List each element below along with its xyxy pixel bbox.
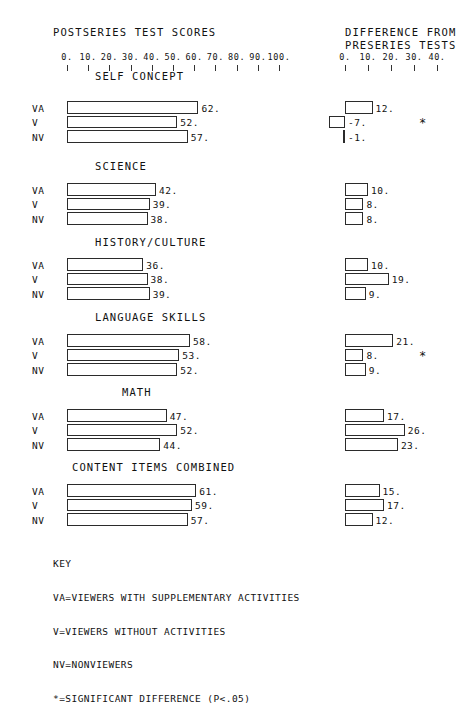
right-axis: 0.10.20.30.40. bbox=[0, 52, 468, 74]
key-line-va: VA=VIEWERS WITH SUPPLEMENTARY ACTIVITIES bbox=[53, 592, 300, 603]
row-label-v: V bbox=[32, 350, 38, 361]
diff-bar bbox=[345, 349, 363, 362]
row-label-v: V bbox=[32, 199, 38, 210]
diff-bar-value: 17. bbox=[387, 411, 406, 422]
row-label-nv: NV bbox=[32, 365, 45, 376]
row-label-nv: NV bbox=[32, 289, 45, 300]
key-line-nv: NV=NONVIEWERS bbox=[53, 659, 300, 670]
row-label-va: VA bbox=[32, 411, 45, 422]
post-bar bbox=[67, 101, 198, 114]
diff-bar bbox=[345, 499, 384, 512]
post-bar-value: 38. bbox=[151, 214, 170, 225]
post-bar bbox=[67, 513, 188, 526]
diff-bar-value: 12. bbox=[376, 103, 395, 114]
post-bar bbox=[67, 183, 156, 196]
axis-tick-mark bbox=[437, 65, 438, 71]
diff-bar bbox=[345, 409, 384, 422]
post-bar-value: 52. bbox=[180, 425, 199, 436]
key-line-v: V=VIEWERS WITHOUT ACTIVITIES bbox=[53, 626, 300, 637]
diff-bar-value: 9. bbox=[369, 289, 381, 300]
row-label-v: V bbox=[32, 425, 38, 436]
post-bar bbox=[67, 438, 160, 451]
axis-tick-label: 40. bbox=[428, 52, 445, 62]
row-label-nv: NV bbox=[32, 515, 45, 526]
post-bar bbox=[67, 287, 150, 300]
post-bar-value: 52. bbox=[180, 117, 199, 128]
post-bar-value: 44. bbox=[163, 440, 182, 451]
diff-bar bbox=[345, 334, 393, 347]
axis-tick-label: 10. bbox=[359, 52, 376, 62]
key-line-sig: *=SIGNIFICANT DIFFERENCE (P<.05) bbox=[53, 693, 300, 704]
post-bar-value: 58. bbox=[193, 336, 212, 347]
post-bar-value: 59. bbox=[195, 500, 214, 511]
row-label-v: V bbox=[32, 500, 38, 511]
post-bar bbox=[67, 273, 148, 286]
diff-bar bbox=[345, 438, 398, 451]
post-bar-value: 36. bbox=[146, 260, 165, 271]
diff-bar-value: -1. bbox=[348, 132, 367, 143]
diff-bar bbox=[345, 198, 363, 211]
row-label-va: VA bbox=[32, 260, 45, 271]
diff-bar bbox=[345, 273, 389, 286]
diff-bar-value: 8. bbox=[366, 214, 378, 225]
post-bar-value: 57. bbox=[191, 515, 210, 526]
axis-tick-label: 20. bbox=[382, 52, 399, 62]
post-bar bbox=[67, 258, 143, 271]
post-bar bbox=[67, 363, 177, 376]
post-bar bbox=[67, 198, 150, 211]
diff-bar bbox=[345, 212, 363, 225]
post-bar bbox=[67, 116, 177, 129]
axis-tick-mark bbox=[345, 65, 346, 71]
post-bar bbox=[67, 424, 177, 437]
axis-tick-label: 30. bbox=[405, 52, 422, 62]
diff-bar bbox=[345, 287, 366, 300]
diff-bar-value: 15. bbox=[383, 486, 402, 497]
row-label-v: V bbox=[32, 274, 38, 285]
post-bar-value: 39. bbox=[153, 199, 172, 210]
post-bar bbox=[67, 130, 188, 143]
row-label-va: VA bbox=[32, 486, 45, 497]
diff-bar bbox=[345, 183, 368, 196]
significance-star: * bbox=[419, 118, 426, 128]
diff-bar-value: 21. bbox=[396, 336, 415, 347]
row-label-va: VA bbox=[32, 103, 45, 114]
diff-bar-value: 8. bbox=[366, 350, 378, 361]
post-bar-value: 38. bbox=[151, 274, 170, 285]
post-bar bbox=[67, 349, 179, 362]
section-title: HISTORY/CULTURE bbox=[95, 236, 206, 248]
key-legend: KEY VA=VIEWERS WITH SUPPLEMENTARY ACTIVI… bbox=[53, 536, 300, 707]
left-panel-title: POSTSERIES TEST SCORES bbox=[53, 26, 216, 38]
diff-bar-value: 26. bbox=[408, 425, 427, 436]
post-bar-value: 47. bbox=[170, 411, 189, 422]
row-label-nv: NV bbox=[32, 132, 45, 143]
diff-bar bbox=[345, 513, 373, 526]
axis-tick-mark bbox=[391, 65, 392, 71]
row-label-va: VA bbox=[32, 336, 45, 347]
diff-bar bbox=[345, 258, 368, 271]
diff-bar bbox=[345, 363, 366, 376]
section-title: MATH bbox=[122, 386, 152, 398]
diff-bar-value: 9. bbox=[369, 365, 381, 376]
diff-bar-value: 12. bbox=[376, 515, 395, 526]
axis-tick-mark bbox=[414, 65, 415, 71]
row-label-nv: NV bbox=[32, 214, 45, 225]
diff-bar bbox=[343, 130, 345, 143]
post-bar-value: 61. bbox=[199, 486, 218, 497]
right-panel-title: DIFFERENCE FROM PRESERIES TESTS bbox=[345, 26, 456, 51]
post-bar bbox=[67, 499, 192, 512]
section-title: SCIENCE bbox=[95, 160, 147, 172]
post-bar-value: 53. bbox=[182, 350, 201, 361]
right-panel-title-line2: PRESERIES TESTS bbox=[345, 39, 456, 52]
diff-bar bbox=[329, 116, 345, 129]
post-bar-value: 39. bbox=[153, 289, 172, 300]
post-bar-value: 62. bbox=[201, 103, 220, 114]
section-title: CONTENT ITEMS COMBINED bbox=[72, 461, 235, 473]
section-title: SELF CONCEPT bbox=[95, 70, 184, 82]
diff-bar bbox=[345, 484, 380, 497]
diff-bar-value: -7. bbox=[348, 117, 367, 128]
post-bar-value: 52. bbox=[180, 365, 199, 376]
post-bar-value: 42. bbox=[159, 185, 178, 196]
row-label-v: V bbox=[32, 117, 38, 128]
key-title: KEY bbox=[53, 558, 300, 569]
